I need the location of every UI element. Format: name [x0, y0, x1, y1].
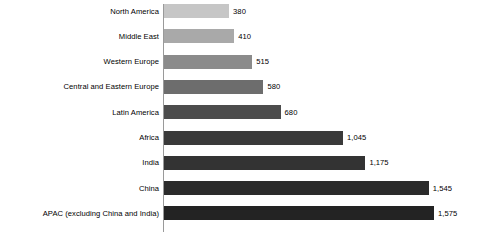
bar-row: APAC (excluding China and India) 1,575 [0, 206, 479, 231]
category-label: North America [0, 4, 159, 18]
value-label: 515 [256, 55, 269, 69]
category-label: India [0, 156, 159, 170]
value-label: 380 [233, 4, 246, 18]
category-label: China [0, 181, 159, 195]
bar-chart: North America 380 Middle East 410 Wester… [0, 0, 479, 238]
category-label: Latin America [0, 105, 159, 119]
bar-row: North America 380 [0, 4, 479, 29]
value-label: 1,545 [433, 181, 452, 195]
value-label: 1,175 [369, 156, 388, 170]
bar[interactable] [164, 105, 281, 119]
bar[interactable] [164, 131, 343, 145]
value-label: 580 [267, 80, 280, 94]
bar[interactable] [164, 156, 365, 170]
value-label: 680 [285, 105, 298, 119]
value-label: 1,575 [438, 206, 457, 220]
category-label: APAC (excluding China and India) [0, 206, 159, 220]
category-label: Western Europe [0, 55, 159, 69]
value-label: 410 [238, 29, 251, 43]
bar-row: India 1,175 [0, 156, 479, 181]
bar-row: China 1,545 [0, 181, 479, 206]
bar[interactable] [164, 181, 429, 195]
category-label: Central and Eastern Europe [0, 80, 159, 94]
category-label: Middle East [0, 29, 159, 43]
bar-row: Africa 1,045 [0, 131, 479, 156]
bar-row: Central and Eastern Europe 580 [0, 80, 479, 105]
bar-row: Latin America 680 [0, 105, 479, 130]
bar[interactable] [164, 29, 234, 43]
bar[interactable] [164, 80, 263, 94]
value-label: 1,045 [347, 131, 366, 145]
category-label: Africa [0, 131, 159, 145]
bar-row: Middle East 410 [0, 29, 479, 54]
plot-area: North America 380 Middle East 410 Wester… [0, 0, 479, 238]
bar[interactable] [164, 55, 252, 69]
bar-row: Western Europe 515 [0, 55, 479, 80]
bar[interactable] [164, 206, 434, 220]
bar[interactable] [164, 4, 229, 18]
